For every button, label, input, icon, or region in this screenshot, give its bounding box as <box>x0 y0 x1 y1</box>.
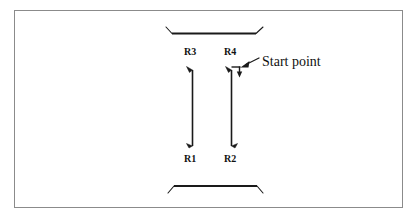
figure-canvas: R3 R4 R1 R2 Start point <box>0 0 417 222</box>
start-point-leader-group <box>241 58 260 68</box>
label-r3: R3 <box>184 47 196 57</box>
label-r4: R4 <box>224 47 236 57</box>
right-column-group <box>226 67 238 149</box>
left-column-top-arrowhead-icon <box>187 67 193 73</box>
left-column-bottom-arrowhead-icon <box>187 144 193 149</box>
right-column-bottom-arrowhead-icon <box>232 144 238 149</box>
label-r2: R2 <box>224 154 236 164</box>
bottom-rail-left-tick-icon <box>168 186 174 193</box>
left-column-group <box>187 67 193 149</box>
diagram-vector-layer <box>0 0 417 222</box>
start-point-marker-arrowhead-icon <box>237 72 242 78</box>
top-rail-right-tick-icon <box>256 27 263 34</box>
top-rail-left-tick-icon <box>166 27 172 34</box>
top-rail-group <box>166 27 263 34</box>
start-point-leader-arrowhead-icon <box>241 61 250 68</box>
label-r1: R1 <box>184 154 196 164</box>
bottom-rail-right-tick-icon <box>257 186 263 193</box>
right-column-top-arrowhead-icon <box>226 67 232 73</box>
start-point-marker-group <box>232 67 243 78</box>
label-start-point: Start point <box>262 55 321 69</box>
bottom-rail-group <box>168 186 263 193</box>
